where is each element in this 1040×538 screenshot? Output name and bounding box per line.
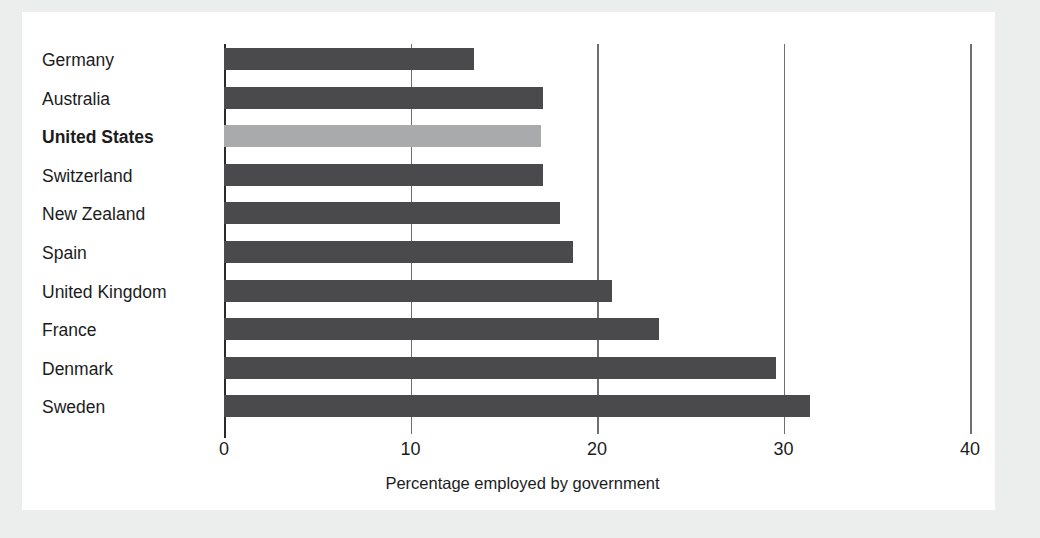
bar bbox=[224, 164, 543, 186]
x-tick-label: 40 bbox=[960, 440, 980, 458]
gridline-30 bbox=[784, 44, 786, 434]
category-label: United States bbox=[42, 129, 224, 147]
gridline-40 bbox=[970, 44, 972, 434]
x-tick-label: 30 bbox=[773, 440, 793, 458]
category-label: Denmark bbox=[42, 361, 224, 379]
plot-area: 010203040 bbox=[224, 12, 995, 510]
category-label: Sweden bbox=[42, 399, 224, 417]
x-tick-label: 0 bbox=[219, 440, 229, 458]
category-label: Germany bbox=[42, 52, 224, 70]
bar bbox=[224, 241, 573, 263]
bar-chart-plot: GermanyAustraliaUnited StatesSwitzerland… bbox=[22, 12, 995, 510]
category-label: United Kingdom bbox=[42, 284, 224, 302]
category-label: Australia bbox=[42, 91, 224, 109]
x-axis-title-text: Percentage employed by government bbox=[385, 474, 659, 492]
x-tick-label: 20 bbox=[587, 440, 607, 458]
bar bbox=[224, 395, 810, 417]
category-label: New Zealand bbox=[42, 206, 224, 224]
category-axis-labels: GermanyAustraliaUnited StatesSwitzerland… bbox=[70, 12, 224, 510]
bar bbox=[224, 318, 659, 340]
category-label: Spain bbox=[42, 245, 224, 263]
x-tick-label: 10 bbox=[400, 440, 420, 458]
category-label: France bbox=[42, 322, 224, 340]
bar bbox=[224, 202, 560, 224]
x-axis-title: Percentage employed by government bbox=[22, 474, 995, 493]
bar bbox=[224, 125, 541, 147]
bar bbox=[224, 87, 543, 109]
bar bbox=[224, 280, 612, 302]
category-label: Switzerland bbox=[42, 168, 224, 186]
chart-card: GermanyAustraliaUnited StatesSwitzerland… bbox=[22, 12, 995, 510]
bar bbox=[224, 48, 474, 70]
bar bbox=[224, 357, 776, 379]
